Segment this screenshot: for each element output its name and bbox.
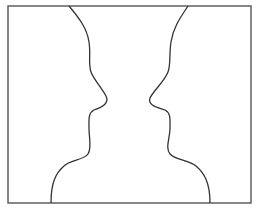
illusion-drawing	[0, 0, 258, 212]
rubin-vase-figure	[0, 0, 258, 212]
frame-border	[8, 6, 251, 203]
